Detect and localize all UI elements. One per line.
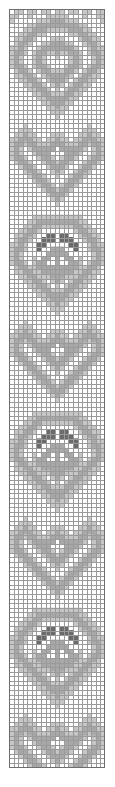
pattern-chart-container (0, 0, 115, 787)
pattern-grid-canvas (9, 9, 105, 768)
